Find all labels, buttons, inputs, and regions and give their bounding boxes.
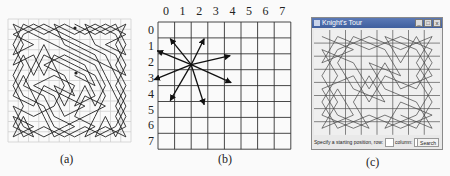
chessboard-8x8: [140, 0, 305, 176]
row-input[interactable]: [385, 138, 394, 147]
tour-end-dot: [74, 71, 77, 74]
minimize-button[interactable]: _: [415, 19, 423, 27]
column-label: column:: [395, 139, 413, 145]
search-button[interactable]: Search: [417, 138, 439, 147]
prompt-label: Specify a starting position, row:: [314, 139, 383, 145]
panel-a-knights-tour-12x12: (a): [0, 0, 140, 176]
window-title: Knight's Tour: [322, 18, 362, 28]
knights-tour-window: Knight's Tour _ □ x Specify a starting p…: [311, 17, 443, 150]
caption-a: (a): [60, 152, 73, 167]
caption-b: (b): [218, 152, 232, 167]
window-titlebar[interactable]: Knight's Tour _ □ x: [312, 18, 442, 28]
maximize-button[interactable]: □: [424, 19, 432, 27]
panel-b-knight-moves: 01234567 01234567 (b): [140, 0, 305, 176]
tour-board[interactable]: [314, 30, 440, 135]
close-button[interactable]: x: [433, 19, 441, 27]
knight-move-arrows: [154, 39, 231, 105]
caption-c: (c): [366, 155, 379, 170]
tour-diagram-c: [314, 30, 440, 135]
java-app-icon: [314, 20, 320, 26]
tour-diagram-a: [0, 0, 140, 176]
tour-start-dot: [73, 26, 76, 29]
start-position-bar: Specify a starting position, row: column…: [314, 137, 440, 148]
